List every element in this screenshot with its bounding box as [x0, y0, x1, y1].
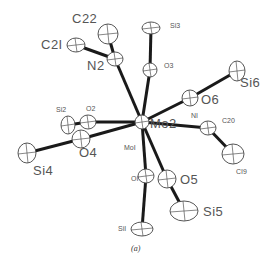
- atom-o5-ellipsoid: [158, 170, 176, 188]
- atom-label-o5: O5: [180, 173, 198, 186]
- atom-label-o6: O6: [201, 93, 219, 106]
- atom-label-si4: Si4: [33, 164, 53, 177]
- atom-c22-ellipsoid: [98, 24, 118, 44]
- ortep-molecular-diagram: Mo2MoIN2C22C2ISi3O3O6Si6NIC20CI9O2Si2O4S…: [0, 0, 272, 265]
- atom-label-c22: C22: [72, 12, 97, 25]
- atom-o6-ellipsoid: [182, 90, 198, 106]
- atom-si3-ellipsoid: [142, 22, 160, 34]
- atom-o1-ellipsoid: [138, 169, 154, 183]
- atom-label-mo1: MoI: [124, 144, 136, 151]
- atom-label-o2: O2: [86, 105, 95, 112]
- atom-label-c21: C2I: [41, 38, 63, 51]
- figure-caption: (a): [131, 245, 140, 253]
- atom-o3-ellipsoid: [143, 63, 157, 77]
- atom-si2-ellipsoid: [61, 116, 75, 134]
- atom-label-si3: Si3: [170, 22, 180, 29]
- atom-label-c19: CI9: [236, 168, 247, 175]
- atom-label-si2: Si2: [56, 106, 66, 113]
- atom-label-o3: O3: [164, 62, 173, 69]
- atom-label-si5: Si5: [203, 205, 223, 218]
- atom-si1-ellipsoid: [131, 222, 153, 236]
- atom-label-n2: N2: [87, 59, 105, 72]
- atom-mo2-ellipsoid: [135, 115, 149, 129]
- atom-label-c20: C20: [222, 117, 235, 124]
- atom-label-si1: SiI: [118, 225, 126, 232]
- atom-label-mo2: Mo2: [150, 117, 177, 130]
- bond-o1-si1: [142, 176, 146, 229]
- atom-label-si6: Si6: [240, 76, 260, 89]
- atom-c21-ellipsoid: [67, 38, 85, 52]
- bond-mo2-o3: [142, 70, 150, 122]
- atom-n1-ellipsoid: [200, 121, 216, 135]
- atom-o2-ellipsoid: [80, 115, 96, 129]
- atom-label-o1: OI: [131, 175, 138, 182]
- atom-n2-ellipsoid: [107, 52, 123, 66]
- atom-c19-ellipsoid: [222, 144, 244, 164]
- atom-label-o4: O4: [79, 146, 97, 159]
- atom-si4-ellipsoid: [18, 143, 36, 163]
- bond-mo2-n2: [115, 59, 142, 122]
- atom-si5-ellipsoid: [170, 201, 198, 221]
- atom-label-n1: NI: [191, 112, 198, 119]
